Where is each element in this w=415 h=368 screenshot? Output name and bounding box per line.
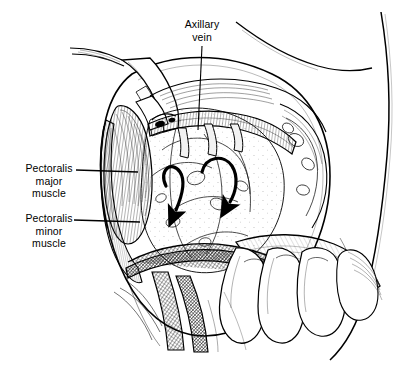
label-axillary-vein: Axillary vein [150, 18, 254, 43]
label-pectoralis-minor-muscle: Pectoralis minor muscle [6, 212, 92, 250]
label-pectoralis-major-muscle: Pectoralis major muscle [6, 162, 92, 200]
anatomical-illustration-figure: Axillary vein Pectoralis major muscle Pe… [0, 0, 415, 368]
